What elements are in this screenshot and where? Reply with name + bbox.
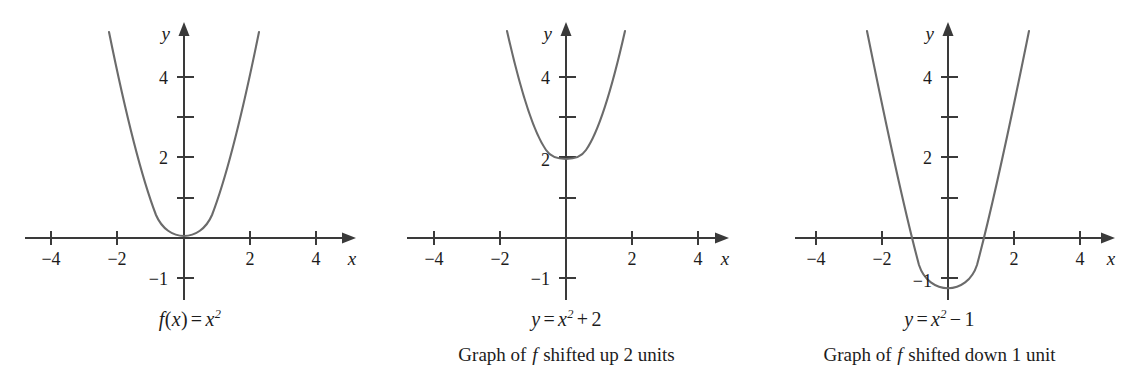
subcaption-prefix: Graph of — [823, 344, 891, 365]
y-ticks — [177, 77, 194, 278]
y-tick-label-4: 4 — [159, 68, 168, 88]
subcaption-suffix: shifted down 1 unit — [908, 344, 1055, 365]
y-axis — [561, 22, 572, 300]
equation-tail-number: 2 — [591, 308, 601, 330]
equation-lhs: y — [904, 308, 913, 330]
subcaption-panel-1: Graph of f shifted up 2 units — [380, 341, 753, 369]
x-tick-label-4: 4 — [694, 249, 703, 269]
y-axis — [179, 22, 190, 300]
equation-rhs-var: x — [205, 308, 214, 330]
y-tick-label-2: 2 — [159, 148, 168, 168]
equation-panel-2: y=x2−1 — [753, 305, 1126, 334]
equation-lhs: y — [531, 308, 540, 330]
y-tick-label-4: 4 — [541, 68, 550, 88]
equation-equals: = — [541, 308, 559, 330]
x-axis-label: x — [1106, 248, 1116, 269]
panel-f-of-x: −4 −2 2 4 4 2 −1 x y f(x)=x2 — [0, 0, 380, 387]
y-tick-label-neg1: −1 — [149, 269, 168, 289]
x-axis — [407, 233, 729, 244]
x-tick-label-2: 2 — [1010, 249, 1019, 269]
caption-block-panel-1: y=x2+2 Graph of f shifted up 2 units — [380, 305, 753, 369]
x-axis — [795, 233, 1115, 244]
x-tick-label-neg2: −2 — [872, 249, 891, 269]
y-tick-label-neg1: −1 — [913, 271, 932, 291]
equation-tail-number: 1 — [964, 308, 974, 330]
equation-exponent: 2 — [567, 307, 574, 321]
parabola-transformations-figure: −4 −2 2 4 4 2 −1 x y f(x)=x2 — [0, 0, 1126, 387]
y-tick-label-4: 4 — [923, 68, 932, 88]
x-tick-label-neg4: −4 — [806, 249, 825, 269]
equation-panel-0: f(x)=x2 — [0, 305, 380, 334]
x-tick-label-neg4: −4 — [41, 249, 60, 269]
plot-shift-up: −4 −2 2 4 4 2 −1 x y — [380, 0, 753, 300]
x-tick-label-4: 4 — [1076, 249, 1085, 269]
y-tick-label-neg1: −1 — [531, 269, 550, 289]
x-axis-label: x — [720, 248, 730, 269]
x-axis-label: x — [347, 248, 357, 269]
equation-rhs-var: x — [931, 308, 940, 330]
y-axis — [943, 22, 954, 300]
caption-block-panel-2: y=x2−1 Graph of f shifted down 1 unit — [753, 305, 1126, 369]
equation-exponent: 2 — [215, 307, 222, 321]
subcaption-function-var: f — [896, 344, 903, 365]
plot-f-of-x: −4 −2 2 4 4 2 −1 x y — [0, 0, 380, 300]
x-tick-label-neg2: −2 — [490, 249, 509, 269]
y-axis-label: y — [924, 23, 935, 44]
equation-argument: x — [172, 308, 181, 330]
subcaption-panel-2: Graph of f shifted down 1 unit — [753, 341, 1126, 369]
x-tick-label-2: 2 — [628, 249, 637, 269]
subcaption-suffix: shifted up 2 units — [543, 344, 674, 365]
y-tick-label-2: 2 — [541, 150, 550, 170]
x-tick-label-4: 4 — [312, 249, 321, 269]
subcaption-prefix: Graph of — [458, 344, 526, 365]
panel-shift-down: −4 −2 2 4 4 2 −1 x y y=x2−1 Graph of f s… — [753, 0, 1126, 387]
plot-shift-down: −4 −2 2 4 4 2 −1 x y — [753, 0, 1126, 300]
equation-equals: = — [188, 308, 206, 330]
x-tick-label-neg4: −4 — [424, 249, 443, 269]
equation-panel-1: y=x2+2 — [380, 305, 753, 334]
equation-tail-operator: + — [574, 308, 592, 330]
y-ticks — [941, 77, 958, 278]
panel-shift-up: −4 −2 2 4 4 2 −1 x y y=x2+2 Graph of f s… — [380, 0, 753, 387]
x-tick-label-neg2: −2 — [107, 249, 126, 269]
y-tick-label-2: 2 — [923, 148, 932, 168]
equation-tail-operator: − — [947, 308, 965, 330]
y-axis-label: y — [160, 23, 171, 44]
subcaption-function-var: f — [531, 344, 538, 365]
y-ticks — [559, 77, 576, 278]
y-axis-label: y — [542, 23, 553, 44]
equation-equals: = — [914, 308, 932, 330]
equation-exponent: 2 — [940, 307, 947, 321]
caption-block-panel-0: f(x)=x2 — [0, 305, 380, 334]
equation-rhs-var: x — [558, 308, 567, 330]
x-tick-label-2: 2 — [246, 249, 255, 269]
